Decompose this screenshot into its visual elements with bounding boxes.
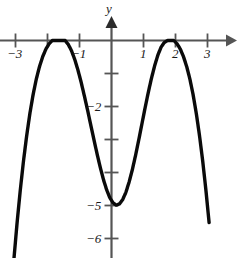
x-axis-arrowhead [226,35,237,47]
graph-figure: y −3 −1 1 2 3 −2 −5 −6 [0,0,240,258]
y-tick-label-neg6: −6 [86,232,101,245]
coordinate-plane-svg [0,0,240,258]
y-axis [106,16,118,258]
x-tick-label-3: 3 [204,47,211,60]
y-tick-label-neg5: −5 [86,199,101,212]
y-axis-label: y [106,2,112,15]
x-tick-label-2: 2 [172,47,179,60]
y-tick-label-neg2: −2 [86,100,101,113]
x-tick-label-1: 1 [140,47,147,60]
x-axis [0,35,237,47]
y-axis-arrowhead [106,16,118,28]
x-tick-label-neg3: −3 [7,47,22,60]
x-tick-label-neg1: −1 [71,47,86,60]
